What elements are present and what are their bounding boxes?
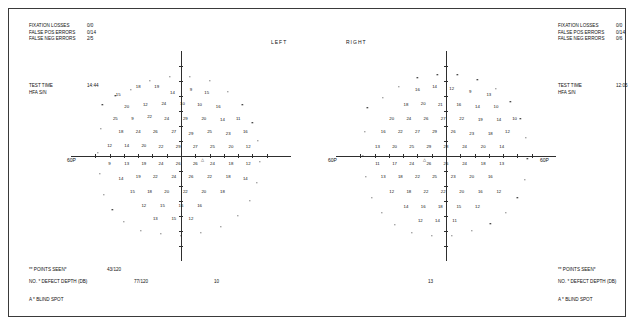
data-point-label: 9	[108, 161, 110, 165]
data-point-label: 18	[147, 190, 152, 194]
data-point-dot	[160, 233, 161, 234]
data-point-label: 17	[392, 161, 397, 165]
data-point-label: 22	[441, 190, 446, 194]
data-point-dot	[517, 197, 518, 198]
data-point-label: 14	[432, 85, 437, 89]
data-point-label: 9	[131, 116, 133, 120]
axis-tick	[517, 154, 518, 158]
axis-tick	[444, 186, 448, 187]
data-point-dot	[510, 101, 511, 102]
axis-tick	[475, 154, 476, 158]
data-point-label: 12	[246, 145, 251, 149]
data-point-label: 14	[119, 176, 124, 180]
data-point-label: 26	[424, 116, 429, 120]
data-point-dot	[490, 223, 491, 224]
data-point-dot	[99, 173, 100, 174]
data-point-label: 23	[226, 131, 231, 135]
data-point-dot	[252, 122, 253, 123]
axis-tick	[532, 154, 533, 158]
data-point-label: 18	[488, 131, 493, 135]
data-point-label: 11	[452, 218, 456, 222]
data-point-dot	[525, 137, 526, 138]
data-point-label: 20	[164, 190, 169, 194]
data-point-label: 19	[141, 161, 146, 165]
data-point-dot	[365, 176, 366, 177]
data-point-dot	[242, 104, 243, 105]
axis-tick	[167, 154, 168, 158]
right-false-neg-value: 0/6	[616, 36, 622, 43]
left-header-block: FIXATION LOSSES0/0 FALSE POS ERRORS0/14 …	[29, 23, 96, 43]
axis-tick	[444, 141, 448, 142]
data-point-label: 22	[147, 115, 152, 119]
left-eye-panel: FIXATION LOSSES0/0 FALSE POS ERRORS0/14 …	[9, 9, 318, 318]
data-point-label: 12	[189, 217, 194, 221]
data-point-label: 18	[404, 103, 409, 107]
data-point-label: 24	[409, 161, 414, 165]
data-point-dot	[259, 161, 260, 162]
data-point-dot	[130, 89, 131, 90]
right-defect-depth-label: NO. * DEFECT DEPTH (DB)	[558, 279, 616, 284]
data-point-dot	[451, 235, 452, 236]
axis-tick	[360, 154, 361, 158]
axis-tick	[110, 154, 111, 158]
data-point-label: 20	[392, 145, 397, 149]
axis-tick	[444, 246, 448, 247]
data-point-label: 29	[183, 116, 188, 120]
data-point-label: 25	[207, 130, 212, 134]
axis-tick	[503, 154, 504, 158]
data-point-label: 15	[130, 190, 135, 194]
data-point-dot	[103, 194, 104, 195]
data-point-dot	[437, 74, 438, 75]
axis-tick	[179, 66, 183, 67]
data-point-label: 18	[438, 205, 443, 209]
left-blind-spot-legend: A * BLIND SPOT	[29, 297, 63, 302]
data-point-dot	[417, 77, 418, 78]
data-point-label: 19	[154, 85, 159, 89]
data-point-label: 29	[432, 130, 437, 134]
data-point-dot	[382, 97, 383, 98]
data-point-label: 14	[475, 104, 480, 108]
data-point-label: 22	[415, 175, 420, 179]
data-point-label: 24	[161, 101, 166, 105]
data-point-dot	[220, 226, 221, 227]
left-points-seen-label: ** POINTS SEEN*	[29, 267, 67, 272]
data-point-label: 12	[246, 161, 251, 165]
data-point-label: 22	[153, 175, 158, 179]
data-point-label: 16	[478, 190, 483, 194]
data-point-label: 12	[449, 86, 454, 90]
data-point-dot	[227, 91, 228, 92]
axis-tick	[444, 96, 448, 97]
data-point-label: 23	[469, 131, 474, 135]
axis-tick	[238, 154, 239, 158]
blind-spot-marker: △	[423, 157, 426, 162]
axis-tick	[179, 186, 183, 187]
data-point-label: 20	[229, 145, 234, 149]
data-point-label: 15	[160, 203, 165, 207]
data-point-label: 16	[421, 205, 426, 209]
axis-tick	[179, 96, 183, 97]
axis-tick	[267, 154, 268, 158]
data-point-label: 15	[456, 205, 461, 209]
axis-tick	[444, 171, 448, 172]
data-point-label: 14	[243, 176, 248, 180]
data-point-label: 25	[210, 145, 215, 149]
data-point-label: 24	[462, 145, 467, 149]
right-false-neg-label: FALSE NEG ERRORS	[558, 36, 616, 43]
axis-tick	[389, 154, 390, 158]
data-point-label: 12	[141, 203, 146, 207]
data-point-label: 16	[179, 203, 184, 207]
data-point-label: 16	[381, 130, 386, 134]
axis-tick	[179, 126, 183, 127]
data-point-label: 22	[183, 190, 188, 194]
data-point-label: 26	[444, 161, 449, 165]
data-point-label: 9	[190, 88, 192, 92]
data-point-label: 24	[171, 175, 176, 179]
data-point-label: 22	[207, 175, 212, 179]
data-point-dot	[381, 212, 382, 213]
left-hfa-label: HFA S/N	[29, 90, 87, 97]
axis-tick	[432, 154, 433, 158]
data-point-dot	[520, 118, 521, 119]
axis-tick	[224, 154, 225, 158]
data-point-dot	[237, 215, 238, 216]
data-point-label: 26	[451, 130, 456, 134]
